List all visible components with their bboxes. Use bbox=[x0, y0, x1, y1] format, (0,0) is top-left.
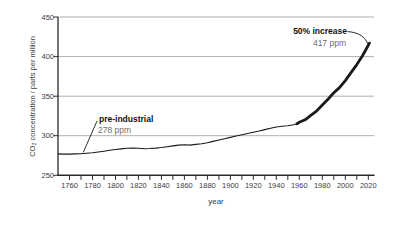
preindustrial-annotation-label: pre-industrial bbox=[99, 114, 153, 124]
y-axis-title-co: CO bbox=[28, 146, 37, 157]
y-axis-title-rest: concentration / parts per million bbox=[28, 36, 37, 142]
increase-annotation-label: 50% increase bbox=[293, 26, 347, 36]
increase-annotation-value: 417 ppm bbox=[313, 38, 346, 48]
y-axis-title: CO2 concentration / parts per million bbox=[28, 17, 39, 177]
co2-concentration-chart: 450 400 350 300 250 1760 1780 1800 1820 … bbox=[0, 0, 397, 226]
preindustrial-annotation-value: 278 ppm bbox=[98, 125, 131, 135]
x-tick-label-2020: 2020 bbox=[353, 181, 383, 190]
y-axis-title-subscript: 2 bbox=[31, 143, 37, 146]
x-axis-title: year bbox=[196, 197, 236, 206]
